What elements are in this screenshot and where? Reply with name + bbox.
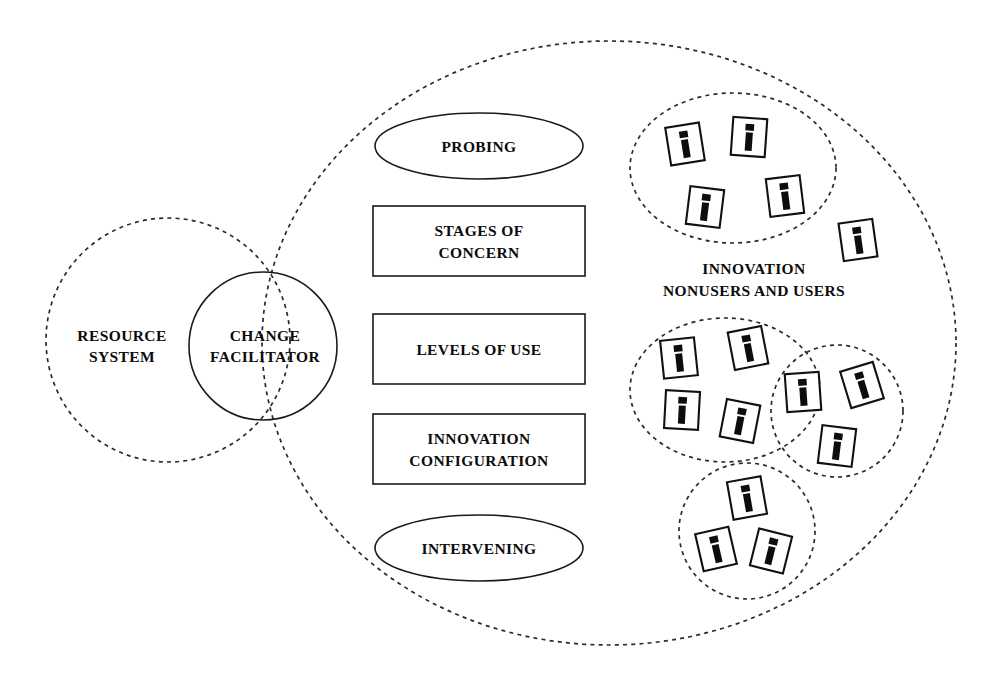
- innovation-configuration-label: INNOVATION CONFIGURATION: [409, 430, 548, 469]
- individual-innovation-user-icon[interactable]: [720, 399, 761, 443]
- individual-innovation-user-icon[interactable]: [686, 186, 724, 228]
- diagram-svg: RESOURCE SYSTEM CHANGE FACILITATOR PROBI…: [0, 0, 996, 673]
- levels-of-use-label: LEVELS OF USE: [416, 341, 541, 358]
- svg-text:INNOVATION: INNOVATION: [702, 260, 805, 277]
- change-facilitator-label: CHANGE FACILITATOR: [210, 327, 320, 365]
- top-user-cluster-boundary: [630, 93, 836, 243]
- individual-innovation-user-icon[interactable]: [727, 476, 767, 519]
- svg-text:SYSTEM: SYSTEM: [89, 348, 155, 365]
- stages-of-concern-label: STAGES OF CONCERN: [434, 222, 523, 261]
- svg-text:CHANGE: CHANGE: [230, 327, 300, 344]
- change-facilitator-boundary: [189, 272, 337, 420]
- individual-innovation-user-icon[interactable]: [766, 175, 804, 217]
- diagram-canvas: RESOURCE SYSTEM CHANGE FACILITATOR PROBI…: [0, 0, 996, 673]
- svg-text:NONUSERS AND USERS: NONUSERS AND USERS: [663, 282, 845, 299]
- resource-system-label: RESOURCE SYSTEM: [77, 327, 166, 365]
- svg-text:CONCERN: CONCERN: [438, 244, 519, 261]
- innovation-configuration-shape: [373, 414, 585, 484]
- individual-innovation-user-icon[interactable]: [750, 528, 792, 573]
- probing-label: PROBING: [441, 138, 516, 155]
- svg-text:RESOURCE: RESOURCE: [77, 327, 166, 344]
- individual-innovation-user-icon[interactable]: [660, 337, 698, 378]
- stages-of-concern-shape: [373, 206, 585, 276]
- individual-innovation-user-icon[interactable]: [839, 219, 878, 261]
- individual-innovation-user-icon[interactable]: [665, 123, 705, 166]
- individual-innovation-user-icon[interactable]: [818, 425, 856, 467]
- intervening-label: INTERVENING: [422, 540, 537, 557]
- individual-innovation-user-icon[interactable]: [695, 527, 737, 572]
- svg-text:STAGES OF: STAGES OF: [434, 222, 523, 239]
- svg-text:CONFIGURATION: CONFIGURATION: [409, 452, 548, 469]
- individual-innovation-user-icon[interactable]: [785, 372, 822, 412]
- innovation-users-group-label: INNOVATION NONUSERS AND USERS: [663, 260, 845, 299]
- outer-system-boundary: [262, 41, 956, 645]
- individual-innovation-user-icon[interactable]: [728, 326, 769, 370]
- individual-innovation-user-icon[interactable]: [731, 117, 768, 157]
- individual-innovation-user-icon[interactable]: [840, 362, 884, 408]
- svg-text:INNOVATION: INNOVATION: [427, 430, 530, 447]
- individual-innovation-user-icon[interactable]: [664, 390, 700, 430]
- svg-text:FACILITATOR: FACILITATOR: [210, 348, 320, 365]
